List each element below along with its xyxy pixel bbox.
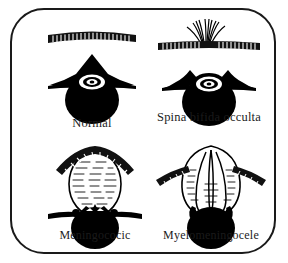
spinal-cord-icon: [75, 71, 109, 93]
hair-tuft-icon: [187, 19, 225, 42]
skin-strip-icon: [48, 32, 136, 44]
panel-label-occulta: Spina bifida occulta: [146, 110, 272, 125]
panel-myelomeningocele: Myelomeningocele: [148, 140, 274, 252]
panel-grid: Normal: [0, 0, 288, 263]
spinal-cord-icon: [192, 73, 226, 95]
panel-label-myelomeningocele: Myelomeningocele: [148, 228, 274, 243]
skin-strip-icon: [158, 41, 260, 50]
panel-meningocele: Meningococic: [40, 140, 150, 252]
panel-normal: Normal: [38, 22, 146, 134]
panel-label-meningocele: Meningococic: [40, 228, 150, 243]
panel-label-normal: Normal: [38, 116, 146, 131]
panel-spina-bifida-occulta: Spina bifida occulta: [146, 16, 272, 134]
